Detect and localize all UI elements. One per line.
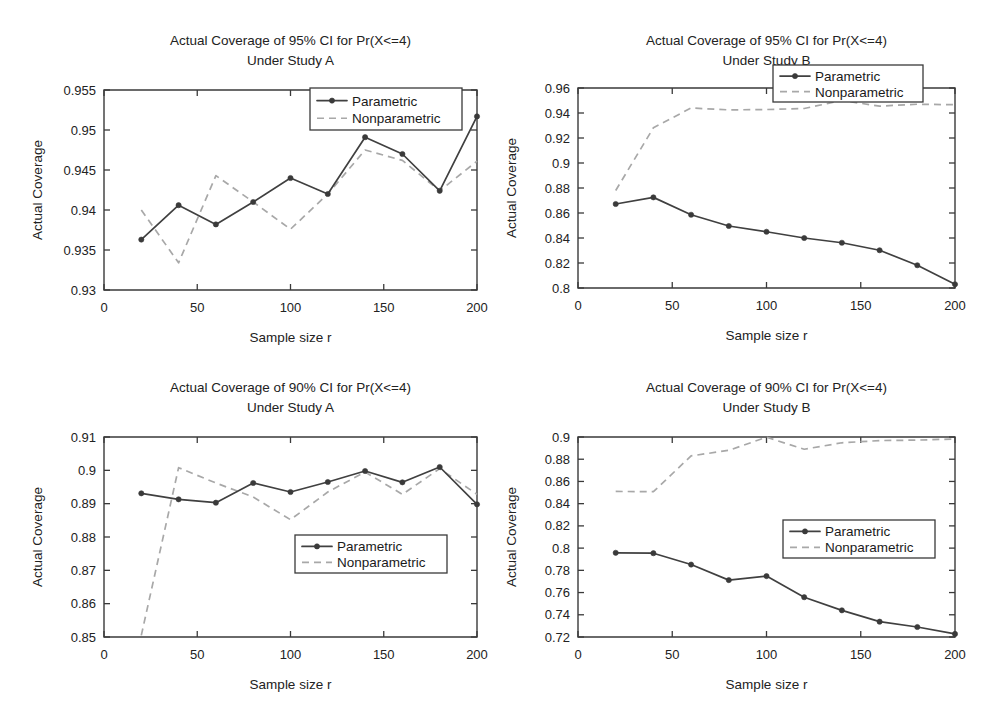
series-line-nonparametric [141,150,477,263]
chart-panel-top-right: Actual Coverage of 95% CI for Pr(X<=4)Un… [501,0,1001,356]
y-tick-label: 0.935 [63,243,96,258]
y-tick-label: 0.8 [552,541,570,556]
chart-title-line1: Actual Coverage of 90% CI for Pr(X<=4) [170,380,411,395]
data-point-marker [139,491,144,496]
legend-label-nonparametric: Nonparametric [825,540,914,555]
y-tick-label: 0.89 [71,496,96,511]
x-tick-label: 100 [280,300,302,315]
legend-label-parametric: Parametric [825,524,891,539]
y-tick-label: 0.93 [71,283,96,298]
legend-marker-parametric [802,529,807,534]
y-tick-label: 0.87 [71,563,96,578]
y-tick-label: 0.9 [552,430,570,445]
chart-title-line2: Under Study A [247,53,334,68]
x-tick-label: 50 [665,647,679,662]
chart-title-line1: Actual Coverage of 95% CI for Pr(X<=4) [170,33,411,48]
x-tick-label: 0 [100,300,107,315]
legend-marker-parametric [792,74,797,79]
y-tick-label: 0.86 [545,206,570,221]
legend-label-nonparametric: Nonparametric [337,555,426,570]
y-tick-label: 0.82 [545,256,570,271]
y-tick-label: 0.94 [71,203,96,218]
data-point-marker [363,468,368,473]
data-point-marker [213,222,218,227]
data-point-marker [251,199,256,204]
data-point-marker [839,240,844,245]
y-axis-label: Actual Coverage [504,487,519,587]
chart-title-line2: Under Study A [247,400,334,415]
y-tick-label: 0.9 [78,463,96,478]
series-line-nonparametric [616,437,955,491]
data-point-marker [952,631,957,636]
y-tick-label: 0.955 [63,83,96,98]
data-point-marker [726,578,731,583]
figure-canvas: Actual Coverage of 95% CI for Pr(X<=4)Un… [0,0,1001,713]
y-tick-label: 0.88 [545,452,570,467]
legend-label-nonparametric: Nonparametric [815,85,904,100]
chart-title-line2: Under Study B [723,400,811,415]
data-point-marker [363,135,368,140]
x-tick-label: 100 [280,647,302,662]
y-tick-label: 0.82 [545,518,570,533]
data-point-marker [288,489,293,494]
x-tick-label: 150 [373,300,395,315]
data-point-marker [288,175,293,180]
y-tick-label: 0.95 [71,123,96,138]
data-point-marker [437,188,442,193]
x-axis-label: Sample size r [726,328,808,343]
y-tick-label: 0.85 [71,630,96,645]
chart-legend: ParametricNonparametric [310,88,462,130]
y-tick-label: 0.8 [552,281,570,296]
y-tick-label: 0.88 [71,530,96,545]
chart-panel-top-left: Actual Coverage of 95% CI for Pr(X<=4)Un… [0,0,500,356]
data-point-marker [325,479,330,484]
y-axis-label: Actual Coverage [504,138,519,238]
chart-panel-bottom-right: Actual Coverage of 90% CI for Pr(X<=4)Un… [501,357,1001,713]
legend-label-parametric: Parametric [815,69,881,84]
x-tick-label: 0 [100,647,107,662]
data-point-marker [400,151,405,156]
data-point-marker [802,235,807,240]
chart-legend: ParametricNonparametric [295,535,447,573]
x-axis-label: Sample size r [250,677,332,692]
y-tick-label: 0.86 [71,596,96,611]
legend-label-nonparametric: Nonparametric [352,111,441,126]
data-point-marker [474,502,479,507]
data-point-marker [437,464,442,469]
x-tick-label: 150 [850,647,872,662]
y-tick-label: 0.91 [71,430,96,445]
data-point-marker [251,480,256,485]
data-point-marker [689,212,694,217]
y-tick-label: 0.96 [545,81,570,96]
y-tick-label: 0.74 [545,607,570,622]
y-axis-label: Actual Coverage [30,487,45,587]
x-tick-label: 100 [756,647,778,662]
x-tick-label: 50 [190,647,204,662]
data-point-marker [400,480,405,485]
x-tick-label: 150 [373,647,395,662]
x-tick-label: 150 [850,298,872,313]
chart-title-line1: Actual Coverage of 90% CI for Pr(X<=4) [646,380,887,395]
data-point-marker [915,624,920,629]
chart-title-line1: Actual Coverage of 95% CI for Pr(X<=4) [646,33,887,48]
data-point-marker [139,237,144,242]
legend-label-parametric: Parametric [337,539,403,554]
data-point-marker [176,497,181,502]
y-axis-label: Actual Coverage [30,140,45,240]
y-tick-label: 0.86 [545,474,570,489]
y-tick-label: 0.945 [63,163,96,178]
data-point-marker [764,229,769,234]
x-tick-label: 200 [466,300,488,315]
data-point-marker [651,551,656,556]
data-point-marker [325,191,330,196]
legend-label-parametric: Parametric [352,94,418,109]
data-point-marker [877,248,882,253]
chart-legend: ParametricNonparametric [783,520,935,558]
series-line-parametric [141,116,477,239]
data-point-marker [474,114,479,119]
y-tick-label: 0.94 [545,106,570,121]
data-point-marker [915,263,920,268]
chart-panel-bottom-left: Actual Coverage of 90% CI for Pr(X<=4)Un… [0,357,500,713]
x-tick-label: 50 [190,300,204,315]
data-point-marker [839,608,844,613]
